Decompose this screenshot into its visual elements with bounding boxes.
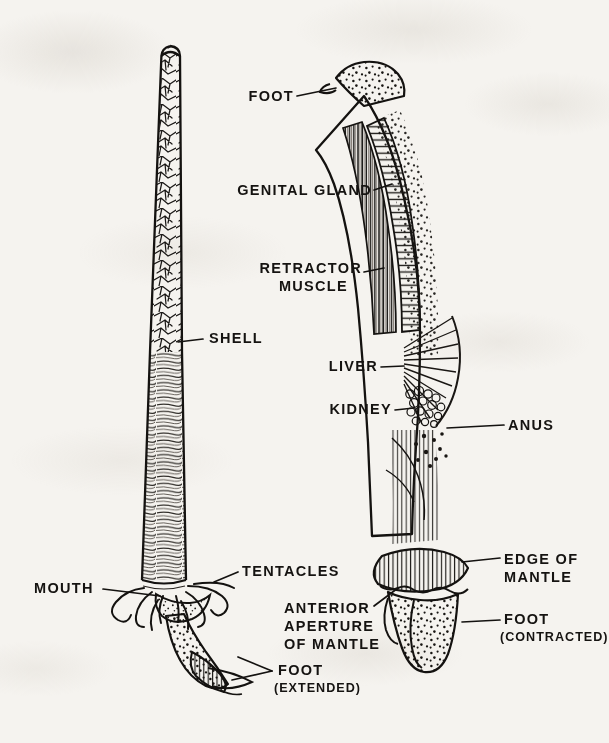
label-tentacles: TENTACLES: [242, 563, 340, 580]
label-edge-of-mantle-line2: MANTLE: [504, 569, 572, 586]
label-retractor-muscle-line2: MUSCLE: [200, 278, 348, 295]
foot-extended: [166, 614, 252, 695]
anatomy-plate: FOOT GENITAL GLAND RETRACTOR MUSCLE SHEL…: [0, 0, 609, 743]
label-foot-contracted-line2: (CONTRACTED): [500, 630, 609, 645]
label-foot: FOOT: [172, 88, 294, 105]
label-genital-gland: GENITAL GLAND: [184, 182, 372, 199]
label-shell: SHELL: [209, 330, 263, 347]
label-kidney: KIDNEY: [250, 401, 392, 418]
label-mouth: MOUTH: [34, 580, 94, 597]
mantle-collar: [374, 549, 468, 594]
label-retractor-muscle-line1: RETRACTOR: [200, 260, 362, 277]
label-foot-extended-line2: (EXTENDED): [274, 681, 361, 696]
label-foot-extended-line1: FOOT: [278, 662, 323, 679]
label-foot-contracted-line1: FOOT: [504, 611, 549, 628]
label-anterior-aperture-line1: ANTERIOR: [284, 600, 370, 617]
label-liver: LIVER: [250, 358, 378, 375]
label-anterior-aperture-line2: APERTURE: [284, 618, 374, 635]
label-anus: ANUS: [508, 417, 554, 434]
animal-body: [316, 62, 460, 550]
foot-contracted: [384, 592, 458, 672]
label-edge-of-mantle-line1: EDGE OF: [504, 551, 578, 568]
shell-figure: [136, 40, 196, 589]
label-anterior-aperture-line3: OF MANTLE: [284, 636, 380, 653]
